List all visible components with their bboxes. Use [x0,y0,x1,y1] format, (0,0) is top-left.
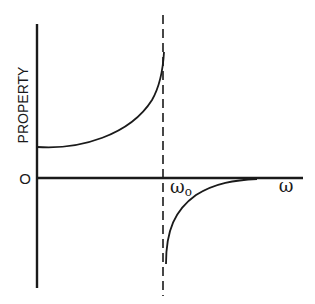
curve-below-resonance [37,52,164,147]
x-axis-label: ω [279,175,294,196]
resonance-label: ωo [170,176,192,199]
dispersion-diagram: PROPERTY O ωo ω [0,0,315,304]
y-axis-label: PROPERTY [15,66,31,143]
resonance-symbol: ω [170,176,185,197]
origin-label: O [19,170,31,187]
resonance-subscript: o [185,185,192,199]
